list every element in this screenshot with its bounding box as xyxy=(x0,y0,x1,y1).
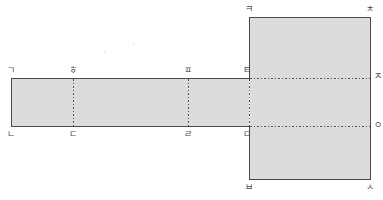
vertex-label-mieum: ㅁ xyxy=(243,130,251,139)
horizontal-strip-shape xyxy=(12,79,249,127)
net-diagram-svg xyxy=(0,0,383,200)
vertex-label-siot: ㅅ xyxy=(366,183,374,192)
vertex-label-giyeok: ㄱ xyxy=(7,66,15,75)
scan-speck xyxy=(133,44,134,45)
scan-speck xyxy=(104,52,105,53)
vertex-label-pieup: ㅍ xyxy=(184,66,192,75)
vertex-label-nieun: ㄴ xyxy=(7,130,15,139)
vertex-label-jieut: ㅈ xyxy=(374,72,382,81)
vertex-label-bieup: ㅂ xyxy=(245,183,253,192)
geometry-figure-canvas: ㄱ ㅎ ㅍ ㅌ ㄴ ㄷ ㄹ ㅁ ㅋ ㅊ ㅈ ㅇ ㅂ ㅅ xyxy=(0,0,383,200)
vertex-label-kieuk: ㅋ xyxy=(245,5,253,14)
vertex-label-digeut: ㄷ xyxy=(69,130,77,139)
vertex-label-tieut: ㅌ xyxy=(243,66,251,75)
vertex-label-ieung: ㅇ xyxy=(374,121,382,130)
vertex-label-chieut: ㅊ xyxy=(366,5,374,14)
vertical-panel-shape xyxy=(250,18,371,180)
scan-speck xyxy=(121,106,122,107)
vertex-label-rieul: ㄹ xyxy=(184,130,192,139)
vertex-label-hieut: ㅎ xyxy=(69,66,77,75)
scan-speck xyxy=(208,97,209,98)
